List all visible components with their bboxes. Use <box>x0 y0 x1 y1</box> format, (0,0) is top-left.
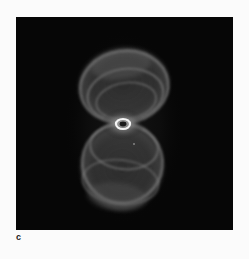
nebula-image <box>16 17 233 230</box>
star-speck <box>133 143 135 145</box>
panel-label: c <box>16 233 21 242</box>
nebula-graphic <box>16 17 233 230</box>
central-ring-hole <box>120 122 127 127</box>
